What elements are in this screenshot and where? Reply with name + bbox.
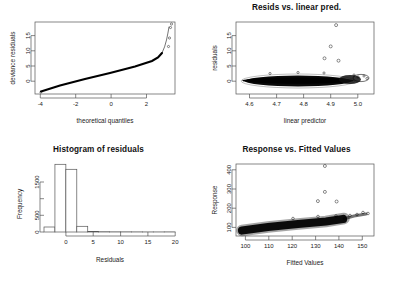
x-tick-0: 0 [109,101,113,107]
response-point-cloud [242,211,369,230]
x-tick-5-0: 5.0 [354,101,363,107]
plot-qq-canvas: 0 5 10 15 -4 -2 0 2 theoretic [0,0,197,142]
y-tick-0: 0 [226,79,232,83]
plot-resids-axes: 0 5 10 15 4.6 4.7 4.8 4.9 [211,22,374,125]
histogram-bar [44,227,55,232]
x-axis-title: theoretical quantiles [77,117,134,125]
x-tick-130: 130 [311,243,322,249]
y-tick-10: 10 [226,47,232,54]
plot-histogram-canvas: 0 500 1500 0 5 10 15 20 [0,142,197,284]
outlier-point [323,165,326,168]
y-tick-15: 15 [25,32,31,39]
x-axis-ticks: -4 -2 0 2 [38,94,149,107]
outlier-point [329,45,332,48]
y-tick-0: 0 [25,79,31,83]
resids-point-cloud [241,71,369,88]
x-tick-4-7: 4.7 [272,101,281,107]
diagnostic-plot-grid: 0 5 10 15 -4 -2 0 2 theoretic [0,0,395,284]
outlier-point [335,24,338,27]
x-tick-100: 100 [240,243,251,249]
y-axis-ticks: 100 200 300 400 [226,164,236,232]
plot-frame [35,22,175,94]
x-tick-15: 15 [145,239,152,245]
y-axis-ticks: 0 5 10 15 [25,32,35,83]
y-tick-200: 200 [226,203,232,214]
x-axis-ticks: 4.6 4.7 4.8 4.9 5.0 [245,94,362,107]
x-tick-20: 20 [172,239,179,245]
x-axis-ticks: 0 5 10 15 20 [64,232,179,245]
x-tick-10: 10 [117,239,124,245]
plot-histogram-of-residuals: Histogram of residuals 0 500 1500 [0,142,197,284]
x-axis-ticks: 100 110 120 130 140 150 [240,236,368,249]
response-outliers [316,165,338,204]
plot-response-vs-fitted: Response vs. Fitted Values 100 200 300 4… [198,142,395,284]
x-tick-110: 110 [264,243,274,249]
outlier-point [335,200,338,203]
x-axis-title: Fitted Values [287,259,324,266]
plot-resids-vs-linear-pred: Resids vs. linear pred. 0 5 10 15 [198,0,395,142]
plot-qq: 0 5 10 15 -4 -2 0 2 theoretic [0,0,197,142]
y-axis-title: residuals [211,45,218,71]
outlier-point [337,59,340,62]
x-tick-150: 150 [357,243,368,249]
histogram-bars [44,164,175,232]
outlier-point [316,200,319,203]
y-tick-100: 100 [226,222,232,233]
x-tick-2: 2 [145,101,149,107]
x-tick-4-8: 4.8 [299,101,308,107]
outlier-point [323,57,326,60]
x-tick-120: 120 [287,243,298,249]
y-tick-10: 10 [25,47,31,54]
y-axis-title: Frequency [16,188,24,219]
plot-histogram-axes: 0 500 1500 0 5 10 15 20 [16,175,179,263]
y-tick-300: 300 [226,183,232,194]
histogram-bar [55,164,66,232]
plot-qq-axes: 0 5 10 15 -4 -2 0 2 theoretic [9,22,175,125]
y-tick-5: 5 [226,64,232,68]
y-axis-title: deviance residuals [9,32,16,85]
plot-response-canvas: 100 200 300 400 100 110 120 [198,142,395,284]
outlier-point [323,190,326,193]
x-tick-140: 140 [334,243,345,249]
y-axis-ticks: 0 5 10 15 [226,32,236,83]
x-tick-5: 5 [92,239,96,245]
histogram-bar [66,169,77,232]
histogram-bar [77,226,88,232]
y-tick-15: 15 [226,32,232,39]
resids-outliers [323,24,340,63]
qq-point-cloud [40,23,173,93]
plot-response-axes: 100 200 300 400 100 110 120 [211,164,374,266]
x-tick-0: 0 [64,239,68,245]
y-tick-400: 400 [226,164,232,175]
x-axis-title: Residuals [96,256,124,263]
y-tick-5: 5 [25,64,31,68]
x-axis-title: linear predictor [284,117,327,125]
y-tick-500: 500 [34,210,40,221]
y-tick-0: 0 [34,230,40,234]
x-tick--4: -4 [38,101,44,107]
x-tick--2: -2 [73,101,79,107]
y-tick-1500: 1500 [34,175,40,189]
x-tick-4-9: 4.9 [327,101,336,107]
y-axis-ticks: 0 500 1500 [34,175,44,234]
y-axis-title: Response [211,185,219,214]
x-tick-4-6: 4.6 [245,101,254,107]
plot-resids-canvas: 0 5 10 15 4.6 4.7 4.8 4.9 [198,0,395,142]
